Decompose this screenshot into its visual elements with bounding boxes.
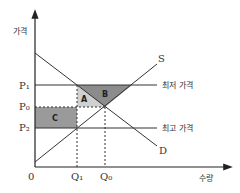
y-axis-label: 가격 [13,26,27,36]
origin-label: 0 [28,171,34,182]
region-a-label: A [81,95,88,104]
p0-label: P₀ [19,101,30,112]
demand-curve [35,53,157,146]
price-control-diagram: 가격 수량 0 P₁ P₀ P₂ Q₁ Q₀ S D 최저 가격 최고 가격 A… [0,0,240,193]
supply-label: S [158,53,165,64]
q1-label: Q₁ [71,171,83,182]
region-c-label: C [52,114,58,123]
x-axis-label: 수량 [199,173,214,183]
p2-label: P₂ [19,122,30,133]
price-floor-label: 최저 가격 [162,80,193,90]
region-b-label: B [102,90,108,99]
q0-label: Q₀ [100,171,112,182]
demand-label: D [159,145,167,156]
price-ceiling-label: 최고 가격 [162,123,193,133]
p1-label: P₁ [19,80,30,91]
